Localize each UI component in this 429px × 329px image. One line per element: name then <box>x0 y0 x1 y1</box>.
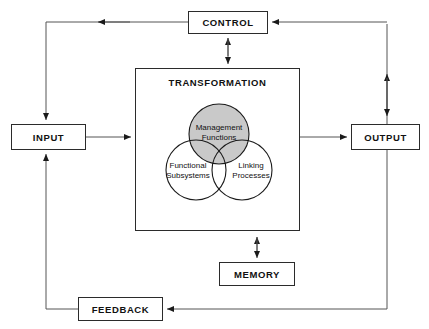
venn-diagram: Management Functions Functional Subsyste… <box>154 96 284 221</box>
transformation-title: TRANSFORMATION <box>136 77 299 88</box>
venn-label-linking-processes-line2: Processes <box>212 171 290 181</box>
node-memory[interactable]: MEMORY <box>219 262 295 286</box>
venn-label-management-functions-line1: Management <box>169 123 269 133</box>
venn-label-linking-processes-line1: Linking <box>212 161 290 171</box>
node-feedback-label: FEEDBACK <box>92 304 150 315</box>
node-input-label: INPUT <box>33 132 65 143</box>
node-control[interactable]: CONTROL <box>188 11 268 34</box>
node-memory-label: MEMORY <box>234 269 280 280</box>
node-control-label: CONTROL <box>202 17 253 28</box>
diagram-canvas: CONTROL INPUT OUTPUT MEMORY FEEDBACK TRA… <box>0 0 429 329</box>
venn-label-management-functions: Management Functions <box>169 123 269 142</box>
node-input[interactable]: INPUT <box>11 124 86 150</box>
wire-feedback-to-input <box>46 154 78 309</box>
venn-label-linking-processes: Linking Processes <box>212 161 290 180</box>
node-feedback[interactable]: FEEDBACK <box>78 297 163 321</box>
node-output-label: OUTPUT <box>364 132 407 143</box>
node-transformation[interactable]: TRANSFORMATION Management Functions Func… <box>135 68 300 231</box>
venn-label-management-functions-line2: Functions <box>169 133 269 143</box>
node-output[interactable]: OUTPUT <box>351 124 420 150</box>
venn-circles <box>154 96 284 221</box>
